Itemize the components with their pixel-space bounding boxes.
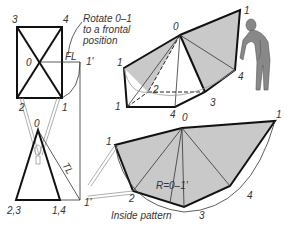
pattern-label-2: 2 xyxy=(128,193,135,204)
annotation-line-3: position xyxy=(82,35,118,46)
pictorial-label-4: 4 xyxy=(238,71,244,82)
top-label-4: 4 xyxy=(63,14,69,25)
front-label-2-3: 2,3 xyxy=(6,205,21,216)
true-length-label: TL xyxy=(60,161,75,177)
radius-label: R=0–1' xyxy=(156,180,189,191)
pattern-label-1-right: 1 xyxy=(276,109,282,120)
pattern-label-4: 4 xyxy=(247,190,253,201)
front-label-0: 0 xyxy=(34,118,40,129)
front-label-1-4: 1,4 xyxy=(52,205,66,216)
front-label-1prime: 1' xyxy=(84,197,93,208)
human-figure xyxy=(240,19,270,90)
pictorial-label-3: 3 xyxy=(210,97,216,108)
pattern-label-1: 1 xyxy=(106,136,112,147)
pictorial-label-1b: 1 xyxy=(115,101,121,112)
top-label-fl: FL xyxy=(65,51,77,62)
top-label-2: 2 xyxy=(18,102,25,113)
pictorial-pyramid xyxy=(124,10,240,107)
pattern-label-3: 3 xyxy=(199,210,205,221)
annotation-line-1: Rotate 0–1 xyxy=(83,13,132,24)
pictorial-label-2: 2 xyxy=(152,84,159,95)
annotation-line-2: to a frontal xyxy=(83,24,131,35)
pattern-label-0: 0 xyxy=(182,112,188,123)
pattern-caption: Inside pattern xyxy=(111,210,172,221)
pattern-label-4-top: 4 xyxy=(170,109,176,120)
top-label-0: 0 xyxy=(26,57,32,68)
pictorial-label-0: 0 xyxy=(173,21,179,32)
pictorial-label-1a: 1 xyxy=(117,57,123,68)
top-label-3: 3 xyxy=(12,14,18,25)
pyramid-development-diagram: 3 4 0 2 1 FL 1' Rotate 0–1 to a frontal … xyxy=(0,0,289,230)
top-label-1prime: 1' xyxy=(86,56,95,67)
top-label-1: 1 xyxy=(62,102,68,113)
pictorial-label-1c: 1 xyxy=(244,5,250,16)
